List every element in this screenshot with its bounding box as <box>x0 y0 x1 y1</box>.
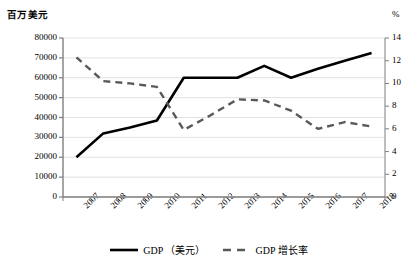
series-line-1 <box>76 57 371 130</box>
chart-legend: GDP （美元）GDP 增长率 <box>0 242 417 257</box>
series-line-0 <box>76 53 371 157</box>
legend-label: GDP （美元） <box>143 242 205 257</box>
gridlines <box>63 38 385 197</box>
plot-area <box>0 0 417 272</box>
legend-label: GDP 增长率 <box>256 242 308 257</box>
dashed-line-icon <box>222 245 252 255</box>
solid-line-icon <box>109 245 139 255</box>
legend-item-1[interactable]: GDP 增长率 <box>222 242 308 257</box>
chart-container: 百万美元 % 010000200003000040000500006000070… <box>0 0 417 272</box>
legend-item-0[interactable]: GDP （美元） <box>109 242 205 257</box>
data-series <box>76 53 371 157</box>
